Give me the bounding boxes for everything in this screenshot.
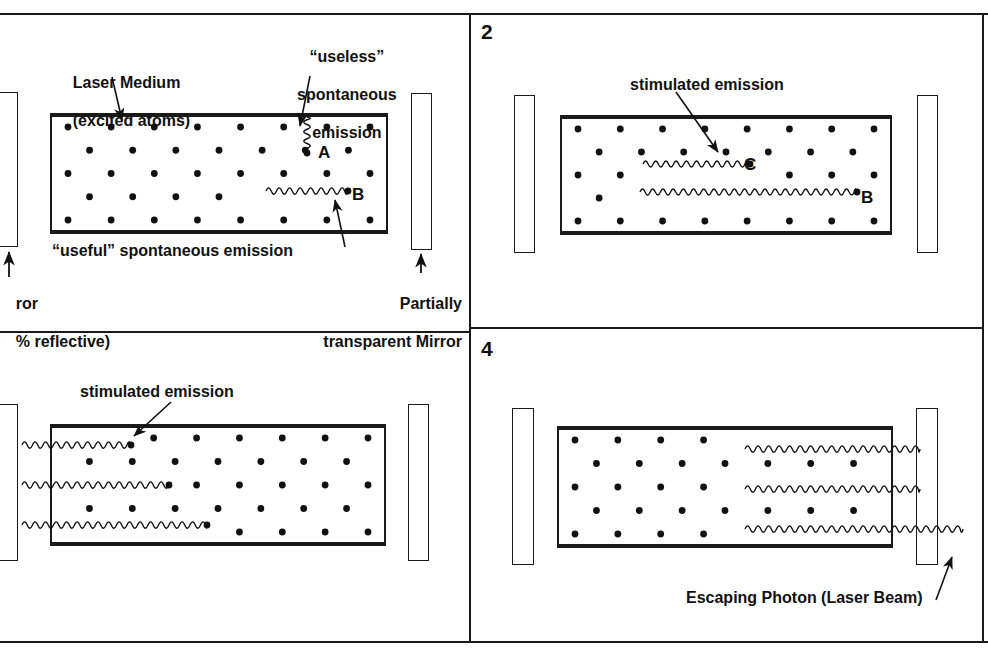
- panel1-left-mirror: [0, 92, 18, 247]
- panel3-stimulated-emission-label: stimulated emission: [80, 382, 234, 401]
- panel-horizontal-divider-right: [469, 327, 984, 329]
- panel1-useless-line2: spontaneous: [297, 86, 397, 103]
- panel1-laser-medium-label: Laser Medium (excited atoms): [55, 54, 190, 149]
- panel3-laser-medium-box: [50, 424, 386, 546]
- panel1-useless-line3: emission: [312, 124, 381, 141]
- panel2-stimulated-emission-label: stimulated emission: [630, 75, 784, 94]
- panel2-point-label-C: C: [744, 155, 756, 175]
- panel3-right-mirror: [408, 404, 429, 561]
- frame-bottom-border: [0, 641, 988, 643]
- panel4-left-mirror: [512, 408, 534, 565]
- panel2-left-mirror: [514, 95, 535, 253]
- panel4-laser-medium-box: [557, 426, 893, 548]
- panel1-useless-emission-label: “useless” spontaneous emission: [272, 28, 404, 161]
- panel4-escaping-photon-label: Escaping Photon (Laser Beam): [686, 588, 923, 607]
- panel1-right-mirror-line1: Partially: [400, 295, 462, 312]
- panel2-right-mirror: [917, 95, 938, 253]
- panel1-useless-line1: “useless”: [310, 48, 385, 65]
- panel1-point-label-A: A: [318, 143, 330, 163]
- panel1-right-mirror-line2: transparent Mirror: [323, 333, 462, 350]
- panel2-laser-medium-box: [560, 115, 892, 235]
- panel4-number: 4: [481, 338, 493, 359]
- panel4-escaping-photon-leader-arrow: [936, 557, 952, 600]
- panel1-right-mirror-label: Partially transparent Mirror: [250, 275, 462, 370]
- figure-canvas: Laser Medium (excited atoms) “useless” s…: [0, 0, 988, 656]
- panel1-right-mirror: [411, 93, 432, 250]
- panel1-left-mirror-line2: % reflective): [16, 333, 110, 350]
- panel1-point-label-B: B: [352, 185, 364, 205]
- panel1-useful-emission-label: “useful” spontaneous emission: [52, 241, 293, 260]
- panel1-medium-label-line1: Laser Medium: [73, 74, 181, 91]
- panel1-left-mirror-label: ror % reflective): [0, 275, 110, 370]
- panel2-point-label-B: B: [861, 188, 873, 208]
- panel1-medium-label-line2: (excited atoms): [73, 112, 190, 129]
- panel4-right-mirror: [916, 408, 938, 565]
- panel1-left-mirror-line1: ror: [16, 295, 38, 312]
- panel2-number: 2: [481, 21, 493, 42]
- frame-top-border: [0, 13, 988, 15]
- panel3-left-mirror: [0, 404, 18, 561]
